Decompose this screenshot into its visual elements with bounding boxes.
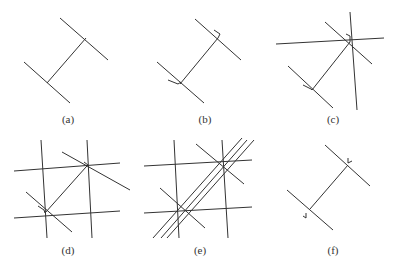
panel-e-line (144, 207, 252, 213)
figure-canvas (0, 0, 395, 266)
panel-c-line (312, 42, 350, 90)
panel-a-line (47, 38, 86, 83)
panel-a-line (60, 18, 108, 60)
panel-d-line (26, 192, 72, 232)
panel-f-corner-mark (348, 158, 352, 163)
panel-c-line (325, 22, 372, 64)
panel-a-caption: (a) (62, 113, 74, 125)
panel-d-line (41, 140, 47, 238)
panel-e-line (174, 140, 179, 238)
panel-b-line (195, 19, 241, 60)
panel-c-line (276, 38, 384, 44)
panel-c-caption: (c) (327, 113, 339, 125)
panel-d-line (14, 163, 120, 171)
panel-b-caption: (b) (199, 113, 212, 125)
panel-c-line (350, 12, 357, 110)
panel-e-caption: (e) (194, 244, 206, 256)
panel-d-line (87, 140, 92, 238)
panel-d-line (45, 167, 86, 213)
panel-e-line (161, 140, 247, 238)
panel-e-line (167, 140, 254, 238)
panel-f-line (310, 165, 348, 209)
panel-e-line (153, 138, 242, 238)
panel-f-line (287, 190, 333, 230)
panel-d-line (14, 211, 120, 218)
panel-f-caption: (f) (328, 244, 339, 256)
panel-d-caption: (d) (62, 244, 75, 256)
panel-f-corner-mark (303, 213, 306, 218)
panel-b-line (180, 38, 218, 84)
panel-d-line (62, 152, 130, 190)
